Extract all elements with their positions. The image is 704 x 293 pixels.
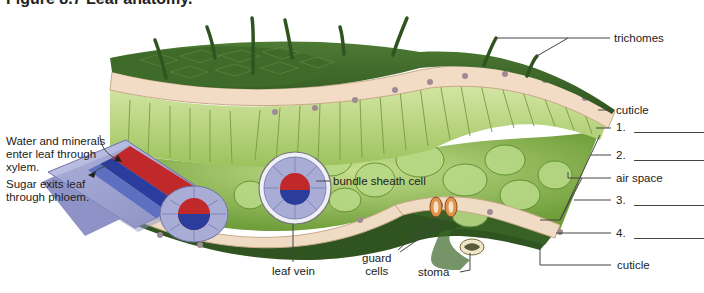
label-air-space: air space bbox=[616, 172, 663, 185]
label-line: guard bbox=[362, 252, 391, 265]
label-sugar-exits: Sugar exits leaf through phloem. bbox=[6, 178, 89, 204]
label-trichomes: trichomes bbox=[614, 32, 664, 45]
answer-blank-2[interactable] bbox=[634, 160, 704, 161]
stoma bbox=[460, 239, 484, 255]
blank-number: 3. bbox=[616, 194, 626, 206]
answer-blank-3[interactable] bbox=[634, 205, 704, 206]
label-line: enter leaf through bbox=[6, 148, 105, 161]
label-blank-3: 3. bbox=[616, 194, 704, 207]
label-leaf-vein: leaf vein bbox=[272, 265, 315, 278]
label-line: cells bbox=[362, 265, 391, 278]
label-line: Sugar exits leaf bbox=[6, 178, 89, 191]
label-water-minerals: Water and minerals enter leaf through xy… bbox=[6, 135, 105, 174]
label-guard-cells: guard cells bbox=[362, 252, 391, 278]
label-cuticle-top: cuticle bbox=[616, 104, 649, 117]
label-bundle-sheath-cell: bundle sheath cell bbox=[333, 175, 426, 188]
label-blank-4: 4. bbox=[616, 227, 704, 240]
label-blank-2: 2. bbox=[616, 149, 704, 162]
blank-number: 4. bbox=[616, 227, 626, 239]
label-blank-1: 1. bbox=[616, 121, 704, 134]
label-stoma: stoma bbox=[418, 266, 449, 279]
blank-number: 1. bbox=[616, 121, 626, 133]
answer-blank-4[interactable] bbox=[634, 238, 704, 239]
leaf-vein-inset bbox=[259, 152, 331, 224]
label-line: Water and minerals bbox=[6, 135, 105, 148]
label-line: through phloem. bbox=[6, 191, 89, 204]
answer-blank-1[interactable] bbox=[634, 132, 704, 133]
label-line: xylem. bbox=[6, 161, 105, 174]
blank-number: 2. bbox=[616, 149, 626, 161]
label-cuticle-bottom: cuticle bbox=[617, 259, 650, 272]
